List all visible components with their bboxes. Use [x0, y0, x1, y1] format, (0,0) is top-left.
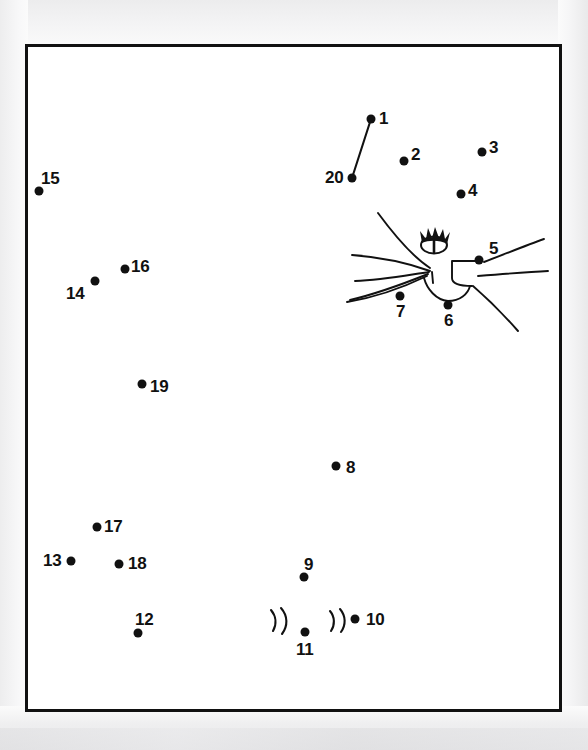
puzzle-dot-12[interactable]	[134, 629, 143, 638]
puzzle-dot-label-11: 11	[296, 641, 313, 658]
puzzle-dot-label-9: 9	[304, 556, 313, 573]
paper-shading-left	[0, 0, 28, 750]
paper-shading-right	[558, 0, 588, 750]
puzzle-dot-label-7: 7	[396, 303, 405, 320]
puzzle-dot-13[interactable]	[67, 557, 76, 566]
puzzle-dot-6[interactable]	[444, 301, 453, 310]
puzzle-dot-11[interactable]	[301, 628, 310, 637]
puzzle-dot-label-4: 4	[468, 182, 477, 199]
puzzle-dot-2[interactable]	[400, 157, 409, 166]
puzzle-dot-label-15: 15	[41, 170, 59, 187]
puzzle-dot-10[interactable]	[351, 615, 360, 624]
puzzle-dot-8[interactable]	[332, 462, 341, 471]
puzzle-dot-label-18: 18	[128, 555, 146, 572]
puzzle-dot-label-19: 19	[150, 378, 168, 395]
puzzle-dot-label-5: 5	[489, 240, 498, 257]
puzzle-dot-label-12: 12	[135, 611, 153, 628]
puzzle-dot-label-1: 1	[379, 110, 388, 127]
puzzle-page: 1234567891011121314151617181920	[0, 0, 588, 750]
puzzle-frame-border	[25, 44, 562, 712]
puzzle-dot-3[interactable]	[478, 148, 487, 157]
puzzle-dot-5[interactable]	[475, 256, 484, 265]
puzzle-dot-1[interactable]	[367, 115, 376, 124]
puzzle-dot-17[interactable]	[93, 523, 102, 532]
puzzle-dot-label-8: 8	[346, 459, 355, 476]
paper-shading-top	[0, 0, 588, 46]
puzzle-dot-label-14: 14	[66, 285, 84, 302]
puzzle-dot-label-13: 13	[43, 552, 61, 569]
puzzle-dot-14[interactable]	[91, 277, 100, 286]
puzzle-dot-label-3: 3	[489, 139, 498, 156]
puzzle-dot-19[interactable]	[138, 380, 147, 389]
puzzle-dot-7[interactable]	[396, 292, 405, 301]
puzzle-dot-label-17: 17	[104, 518, 122, 535]
puzzle-dot-label-16: 16	[131, 258, 149, 275]
puzzle-dot-label-10: 10	[366, 611, 384, 628]
puzzle-dot-label-2: 2	[411, 146, 420, 163]
paper-shading-corner	[0, 728, 588, 750]
puzzle-dot-4[interactable]	[457, 190, 466, 199]
puzzle-dot-18[interactable]	[115, 560, 124, 569]
puzzle-dot-16[interactable]	[121, 265, 130, 274]
puzzle-dot-label-6: 6	[444, 312, 453, 329]
paper-shading-bottom	[0, 706, 588, 750]
puzzle-dot-20[interactable]	[348, 174, 357, 183]
puzzle-dot-label-20: 20	[325, 169, 343, 186]
